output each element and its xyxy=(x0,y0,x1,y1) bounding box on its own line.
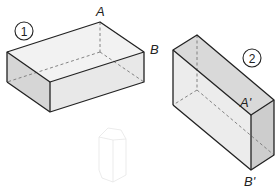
faint-sketch xyxy=(99,128,126,182)
vertex-label-b-prime: B' xyxy=(244,174,256,189)
vertex-label-b: B xyxy=(150,42,159,57)
diagram-canvas: 1 A B 2 A' B' xyxy=(0,0,279,190)
figure-1-number: 1 xyxy=(21,25,28,39)
vertex-label-a-prime: A' xyxy=(239,95,252,110)
box-2: 2 A' B' xyxy=(173,35,274,189)
vertex-label-a: A xyxy=(95,4,105,19)
figure-2-number: 2 xyxy=(249,52,256,66)
box-1: 1 A B xyxy=(7,4,159,112)
